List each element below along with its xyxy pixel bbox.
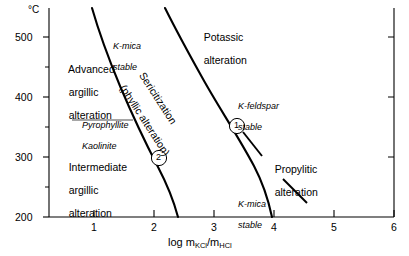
x-tick-label-5: 5 [331, 221, 337, 233]
region-potassic-line2: alteration [204, 54, 247, 66]
marker-label-2: 2 [156, 152, 161, 164]
mineral-label-k-feldspar-stable: K-feldspar stable [228, 90, 279, 143]
region-propylitic-line2: alteration [275, 186, 318, 198]
k-feldspar-stable-line2: stable [238, 122, 262, 132]
x-tick-label-6: 6 [391, 221, 397, 233]
y-tick-label-200: 200 [15, 211, 33, 223]
x-axis-title-mid: /m [207, 236, 219, 248]
region-label-intermediate-argillic: Intermediate argillic alteration [57, 150, 127, 231]
x-axis-title-prefix: log m [168, 236, 195, 248]
mineral-label-pyrophyllite-kaolinite: Pyrophyllite Kaolinite [72, 109, 129, 162]
region-intermediate-argillic-line2: argillic [69, 184, 99, 196]
marker-label-1: 1 [234, 120, 239, 132]
x-axis-title-sub-kcl: KCl [195, 241, 207, 250]
alteration-phase-diagram: °C 500 400 300 200 1 2 3 4 5 6 log mKCl/… [0, 0, 409, 256]
region-advanced-argillic-line2: argillic [69, 86, 99, 98]
x-tick-label-4: 4 [271, 221, 277, 233]
y-axis-unit-label: °C [28, 4, 39, 15]
k-mica-stable-upper-line2: stable [113, 62, 137, 72]
mineral-label-k-mica-stable-lower: K-mica stable [228, 188, 266, 241]
y-tick-label-400: 400 [15, 91, 33, 103]
k-mica-stable-lower-line1: K-mica [238, 199, 266, 209]
y-tick-label-500: 500 [15, 31, 33, 43]
region-propylitic-line1: Propylitic [275, 163, 318, 175]
x-axis-title: log mKCl/mHCl [168, 236, 232, 248]
region-potassic-line1: Potassic [204, 31, 244, 43]
pyrophyllite-label: Pyrophyllite [82, 120, 129, 130]
k-mica-stable-upper-line1: K-mica [113, 41, 141, 51]
x-tick-label-2: 2 [151, 221, 157, 233]
k-feldspar-stable-line1: K-feldspar [238, 101, 279, 111]
region-intermediate-argillic-line1: Intermediate [69, 161, 127, 173]
k-mica-stable-lower-line2: stable [238, 220, 262, 230]
x-axis-title-sub-hcl: HCl [219, 241, 232, 250]
x-tick-label-3: 3 [211, 221, 217, 233]
y-tick-label-300: 300 [15, 151, 33, 163]
region-intermediate-argillic-line3: alteration [69, 207, 112, 219]
region-label-potassic: Potassic alteration [192, 20, 247, 78]
region-label-propylitic: Propylitic alteration [263, 152, 318, 210]
kaolinite-label: Kaolinite [82, 141, 117, 151]
mineral-label-k-mica-stable-upper: K-mica stable [103, 30, 141, 83]
